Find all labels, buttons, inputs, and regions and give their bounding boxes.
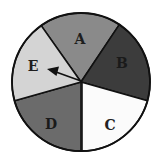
sector-label-b: B [116, 55, 128, 71]
sector-label-a: A [74, 31, 87, 47]
spinner-diagram: A B C D E [0, 0, 161, 165]
sector-label-e: E [28, 58, 39, 74]
sector-label-d: D [45, 116, 57, 132]
sector-label-c: C [104, 117, 115, 133]
